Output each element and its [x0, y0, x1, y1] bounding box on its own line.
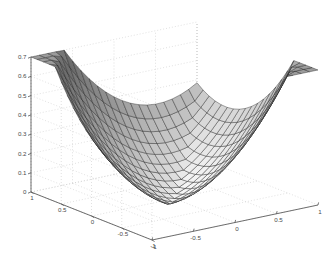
surface-plot-svg: 00.10.20.30.40.50.60.710.50-0.5-1-1-0.50… — [0, 0, 335, 269]
y-tick-label: 0 — [91, 218, 95, 225]
z-tick-label: 0.3 — [18, 130, 27, 137]
x-tick-label: 0 — [235, 225, 239, 232]
z-tick-label: 0.2 — [18, 150, 27, 157]
z-tick-label: 0 — [23, 188, 27, 195]
z-tick-label: 0.4 — [18, 111, 27, 118]
figure-canvas: 00.10.20.30.40.50.60.710.50-0.5-1-1-0.50… — [0, 0, 335, 269]
y-tick-label: -0.5 — [117, 230, 128, 237]
x-tick-label: -1 — [151, 243, 157, 250]
z-tick-label: 0.1 — [18, 169, 27, 176]
x-tick-label: -0.5 — [190, 234, 201, 241]
z-tick-label: 0.5 — [18, 92, 27, 99]
y-tick-label: 1 — [30, 194, 34, 201]
z-tick-label: 0.6 — [18, 72, 27, 79]
z-tick-label: 0.7 — [18, 53, 27, 60]
x-tick-label: 0.5 — [274, 216, 283, 223]
x-tick-label: 1 — [318, 208, 322, 215]
y-tick-label: 0.5 — [58, 206, 67, 213]
